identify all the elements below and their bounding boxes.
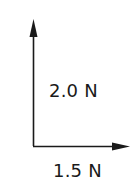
horizontal-arrow xyxy=(33,143,130,151)
horizontal-arrowhead-icon xyxy=(112,143,130,151)
vertical-force-label: 2.0 N xyxy=(49,82,98,100)
vertical-arrowhead-icon xyxy=(30,19,38,37)
vertical-arrow xyxy=(30,19,38,146)
horizontal-force-label: 1.5 N xyxy=(53,162,102,180)
